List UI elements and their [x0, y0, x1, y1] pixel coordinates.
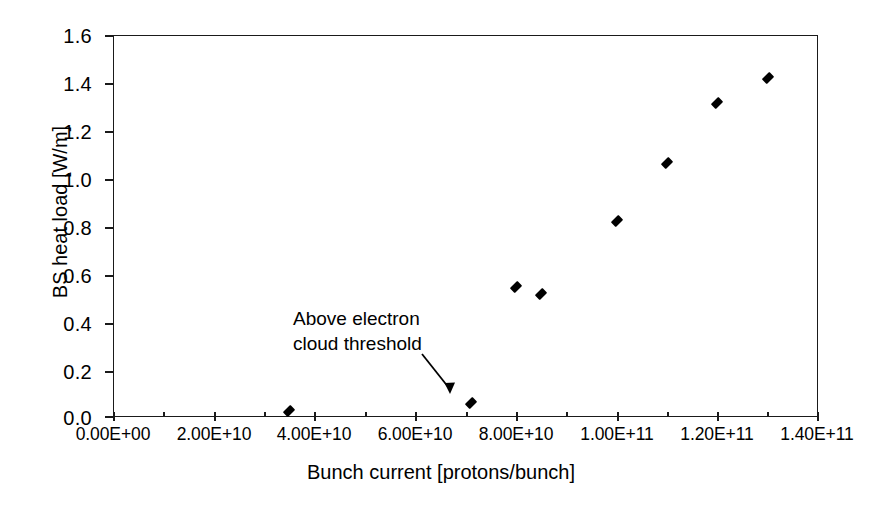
x-tick-label-2: 4.00E+10	[277, 425, 352, 443]
y-tick-label-1.0: 1.0	[63, 170, 92, 190]
y-tick-label-0.2: 0.2	[63, 362, 92, 382]
x-axis-title: Bunch current [protons/bunch]	[0, 462, 882, 482]
y-tick-mark	[105, 416, 113, 418]
x-tick-label-5: 1.00E+11	[580, 425, 653, 443]
y-tick-mark	[105, 227, 113, 229]
x-tick-label-7: 1.40E+11	[780, 425, 853, 443]
x-tick-label-4: 8.00E+10	[479, 425, 554, 443]
y-tick-label-1.2: 1.2	[63, 122, 92, 142]
y-tick-mark	[105, 83, 113, 85]
y-tick-mark	[105, 371, 113, 373]
x-tick-label-1: 2.00E+10	[177, 425, 252, 443]
y-tick-mark	[105, 179, 113, 181]
y-tick-mark	[105, 275, 113, 277]
annotation-arrow-icon	[400, 348, 470, 406]
y-tick-mark	[105, 35, 113, 37]
y-tick-label-1.6: 1.6	[63, 26, 92, 46]
y-tick-label-0.8: 0.8	[63, 218, 92, 238]
y-tick-mark	[105, 131, 113, 133]
y-tick-mark	[105, 323, 113, 325]
x-tick-label-3: 6.00E+10	[378, 425, 453, 443]
chart-figure: BS heat load [W/m] Bunch current [proton…	[0, 0, 882, 512]
annotation-line-1: Above electron	[293, 306, 422, 331]
x-tick-label-6: 1.20E+11	[680, 425, 753, 443]
y-tick-label-0.4: 0.4	[63, 314, 92, 334]
y-tick-label-0.6: 0.6	[63, 266, 92, 286]
x-tick-label-0: 0.00E+00	[76, 425, 151, 443]
y-tick-label-1.4: 1.4	[63, 74, 92, 94]
